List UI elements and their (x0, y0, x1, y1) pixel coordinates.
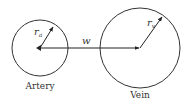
distance-label: w (82, 35, 91, 46)
artery-center-marker (36, 45, 41, 51)
artery-label: Artery (25, 81, 54, 91)
vein-radius-label: rv (147, 17, 155, 29)
vein-label: Vein (130, 90, 150, 100)
artery-radius-label: ra (34, 26, 42, 38)
artery-radius-subscript: a (39, 31, 43, 38)
vein-radius-subscript: v (152, 22, 155, 29)
